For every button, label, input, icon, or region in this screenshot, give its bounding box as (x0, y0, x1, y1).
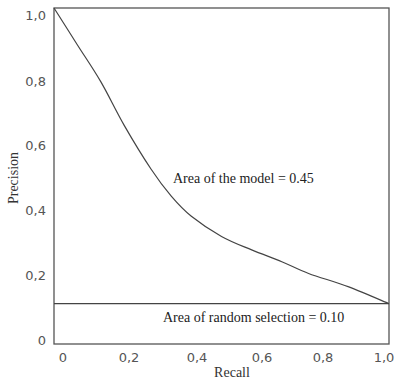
x-tick-0-2: 0,2 (119, 350, 140, 365)
x-tick-0-8: 0,8 (313, 350, 334, 365)
y-tick-0-8: 0,8 (25, 74, 46, 89)
x-tick-0-6: 0,6 (252, 350, 273, 365)
random-area-annotation: Area of random selection = 0.10 (163, 310, 344, 325)
y-tick-1-0: 1,0 (25, 8, 46, 23)
x-axis-label: Recall (214, 365, 250, 380)
y-tick-0-6: 0,6 (25, 138, 46, 153)
model-area-annotation: Area of the model = 0.45 (173, 171, 314, 186)
y-axis-label: Precision (6, 152, 21, 204)
y-tick-0-2: 0,2 (25, 268, 46, 283)
y-tick-0-4: 0,4 (25, 203, 46, 218)
x-tick-0: 0 (59, 350, 67, 365)
x-tick-1-0: 1,0 (374, 350, 395, 365)
precision-recall-chart: 0 0,2 0,4 0,6 0,8 1,0 0 0,2 0,4 0,6 0,8 … (0, 0, 404, 385)
x-tick-0-4: 0,4 (187, 350, 208, 365)
y-tick-0: 0 (38, 333, 46, 348)
model-curve (54, 8, 389, 304)
